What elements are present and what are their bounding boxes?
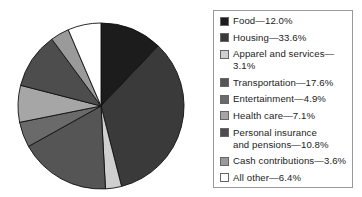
legend-label: Transportation—17.6% — [233, 77, 333, 89]
legend-label: Entertainment—4.9% — [233, 93, 326, 105]
swatch-apparel — [220, 50, 229, 59]
legend-label: Cash contributions—3.6% — [233, 155, 346, 167]
legend-item-cash-contributions: Cash contributions—3.6% — [220, 155, 352, 167]
pie-chart — [0, 0, 185, 197]
legend-label: Housing—33.6% — [233, 32, 306, 44]
swatch-all-other — [220, 173, 229, 182]
legend-item-food: Food—12.0% — [220, 15, 352, 27]
swatch-entertainment — [220, 95, 229, 104]
legend-item-personal-insurance: Personal insurance and pensions—10.8% — [220, 127, 352, 151]
swatch-housing — [220, 33, 229, 42]
legend: Food—12.0% Housing—33.6% Apparel and ser… — [213, 10, 353, 188]
legend-item-housing: Housing—33.6% — [220, 32, 352, 44]
legend-label: Personal insurance and pensions—10.8% — [233, 127, 329, 151]
legend-item-entertainment: Entertainment—4.9% — [220, 93, 352, 105]
swatch-health-care — [220, 111, 229, 120]
legend-label: Food—12.0% — [233, 15, 293, 27]
legend-label: All other—6.4% — [233, 172, 301, 184]
swatch-personal-insurance — [220, 128, 229, 137]
legend-label: Health care—7.1% — [233, 110, 315, 122]
swatch-food — [220, 17, 229, 26]
legend-item-all-other: All other—6.4% — [220, 172, 352, 184]
swatch-cash-contributions — [220, 157, 229, 166]
legend-item-apparel: Apparel and services—3.1% — [220, 48, 352, 72]
swatch-transportation — [220, 78, 229, 87]
legend-item-health-care: Health care—7.1% — [220, 110, 352, 122]
legend-item-transportation: Transportation—17.6% — [220, 77, 352, 89]
legend-label: Apparel and services—3.1% — [233, 48, 352, 72]
